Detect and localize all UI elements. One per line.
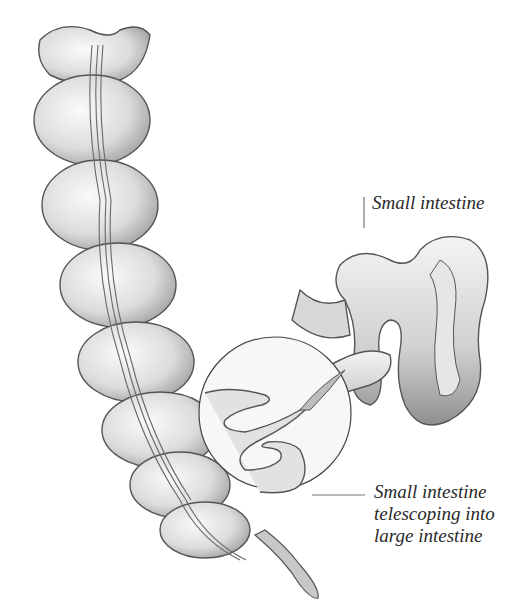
label-telescoping: Small intestine telescoping into large i…	[374, 481, 495, 547]
large-intestine	[34, 27, 250, 558]
label-telescoping-line-1: Small intestine	[374, 481, 495, 503]
label-small-intestine: Small intestine	[372, 192, 484, 214]
appendix	[255, 530, 318, 598]
label-telescoping-line-2: telescoping into	[374, 503, 495, 525]
label-telescoping-line-3: large intestine	[374, 525, 495, 547]
